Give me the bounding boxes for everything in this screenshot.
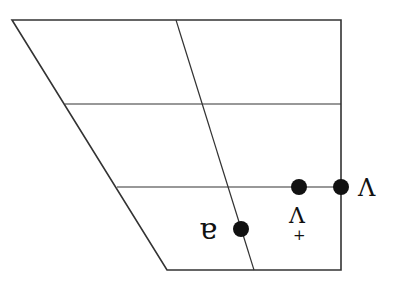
vowel-dot-turned-a <box>233 221 249 237</box>
vowel-dot-advanced-wedge <box>291 179 307 195</box>
vowel-label-turned-a: ɐ <box>199 214 217 244</box>
vowel-label-advanced-wedge: Λ <box>289 205 305 227</box>
vowel-trapezoid <box>12 20 341 270</box>
vowel-label-wedge: Λ <box>358 176 375 200</box>
vowel-dot-wedge <box>333 179 349 195</box>
vowel-chart <box>0 0 396 284</box>
advanced-diacritic: + <box>293 228 306 243</box>
